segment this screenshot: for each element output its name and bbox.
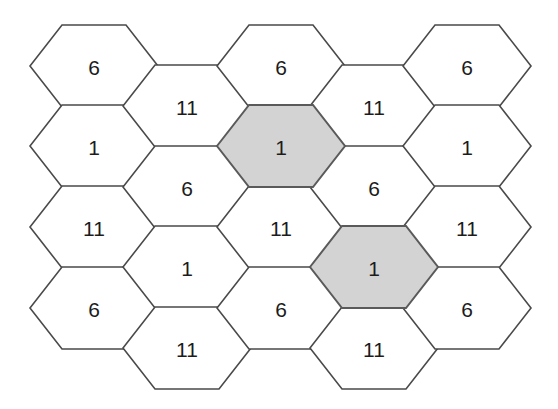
hex-cell-label: 1	[88, 136, 100, 159]
hex-cell-label: 1	[275, 136, 287, 159]
hex-cell-label: 6	[88, 298, 100, 321]
hex-cell-label: 6	[181, 177, 193, 200]
hex-cell-label: 11	[83, 217, 105, 240]
hex-cell-label: 1	[368, 257, 380, 280]
hex-cell-label: 11	[270, 217, 292, 240]
hex-cell-label: 6	[368, 177, 380, 200]
hex-cell-label: 11	[363, 96, 385, 119]
hex-cell-label: 11	[456, 217, 478, 240]
hex-cell-label: 11	[176, 338, 198, 361]
hex-cell-label: 6	[275, 298, 287, 321]
hex-cell-label: 1	[181, 257, 193, 280]
hex-cell-label: 1	[461, 136, 473, 159]
hex-cell-label: 6	[88, 56, 100, 79]
hexagon-grid-diagram: 611161161116111611611161116	[0, 0, 558, 409]
hexagon-grid-canvas: 611161161116111611611161116	[0, 0, 558, 409]
hex-cell-label: 6	[461, 298, 473, 321]
hex-cell-label: 6	[275, 56, 287, 79]
hex-cell-layer-plain	[30, 25, 531, 389]
hex-cell-label: 11	[176, 96, 198, 119]
hex-cell-label: 6	[461, 56, 473, 79]
hex-cell-label: 11	[363, 338, 385, 361]
